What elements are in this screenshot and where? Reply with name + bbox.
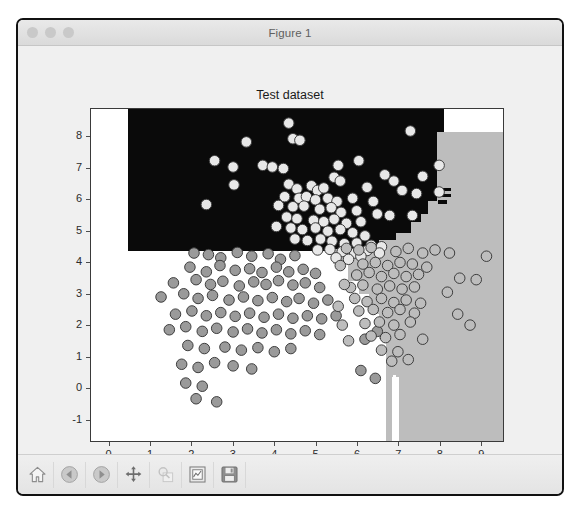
window-titlebar[interactable]: Figure 1 [18,20,562,46]
scatter-point [333,160,344,171]
back-arrow-icon [60,465,79,484]
scatter-point [415,298,426,309]
home-icon [28,465,47,484]
scatter-point [253,295,264,306]
scatter-point [384,210,395,221]
scatter-point [329,214,340,225]
x-tick-mark [191,442,192,446]
scatter-point [384,281,395,292]
x-tick-mark [150,442,151,446]
scatter-point [430,245,441,256]
scatter-point [382,307,393,318]
scatter-point [292,213,303,224]
scatter-point [376,293,387,304]
scatter-point [380,332,391,343]
scatter-point [417,248,428,259]
scatter-point [358,280,369,291]
scatter-point [209,155,220,166]
scatter-point [360,318,371,329]
y-tick-label: 7 [56,161,82,173]
x-tick-mark [481,442,482,446]
scatter-point [364,267,375,278]
x-tick-mark [274,442,275,446]
scatter-point [389,268,400,279]
forward-arrow-icon [92,465,111,484]
zoom-button[interactable] [150,459,181,490]
scatter-point [347,227,358,238]
scatter-point [335,224,346,235]
y-tick-label: 0 [56,381,82,393]
scatter-point [407,259,418,270]
scatter-point [199,343,210,354]
scatter-point [403,243,414,254]
scatter-point [354,306,365,317]
y-tick-mark [86,325,90,326]
scatter-point [397,284,408,295]
scatter-point [288,313,299,324]
y-tick-mark [86,388,90,389]
scatter-point [356,216,367,227]
scatter-point [316,314,327,325]
scatter-point [180,321,191,332]
scatter-point [351,270,362,281]
scatter-point [168,278,179,289]
window-title: Figure 1 [18,20,562,46]
scatter-point [349,293,360,304]
scatter-point [183,340,194,351]
scatter-point [278,163,289,174]
scatter-point [238,292,249,303]
scatter-point [271,221,282,232]
scatter-point [220,342,231,353]
scatter-point [170,309,181,320]
plot-axes[interactable] [90,108,504,442]
scatter-point [314,329,325,340]
y-tick-mark [86,262,90,263]
scatter-point [366,242,377,253]
scatter-point [337,320,348,331]
x-tick-mark [398,442,399,446]
scatter-point [228,327,239,338]
scatter-point [261,279,272,290]
scatter-point [257,267,268,278]
pan-button[interactable] [118,459,149,490]
scatter-point [310,268,321,279]
scatter-point [391,246,402,257]
scatter-point [393,346,404,357]
scatter-point [397,185,408,196]
scatter-point [292,184,303,195]
x-tick-mark [316,442,317,446]
forward-button[interactable] [86,459,117,490]
y-tick-label: -1 [56,413,82,425]
scatter-point [395,304,406,315]
scatter-point [209,357,220,368]
scatter-point [242,324,253,335]
scatter-point [203,249,214,260]
subplots-button[interactable] [182,459,213,490]
scatter-point [234,281,245,292]
subplots-icon [188,465,207,484]
scatter-point [360,231,371,242]
scatter-point [481,251,492,262]
scatter-point [191,393,202,404]
scatter-point [271,325,282,336]
scatter-point [395,329,406,340]
scatter-point [444,248,455,259]
scatter-point [294,293,305,304]
scatter-point [244,263,255,274]
scatter-point [401,295,412,306]
scatter-point [300,325,311,336]
figure-canvas[interactable]: Test dataset 0123456789 -1012345678 [18,46,562,458]
y-tick-mark [86,420,90,421]
scatter-point [323,295,334,306]
scatter-point [335,260,346,271]
home-button[interactable] [22,459,53,490]
scatter-point [302,235,313,246]
navigation-toolbar[interactable] [18,454,562,494]
save-button[interactable] [214,459,245,490]
x-tick-mark [233,442,234,446]
scatter-point [244,308,255,319]
back-button[interactable] [54,459,85,490]
scatter-point [193,293,204,304]
scatter-point [421,262,432,273]
scatter-point [315,234,326,245]
